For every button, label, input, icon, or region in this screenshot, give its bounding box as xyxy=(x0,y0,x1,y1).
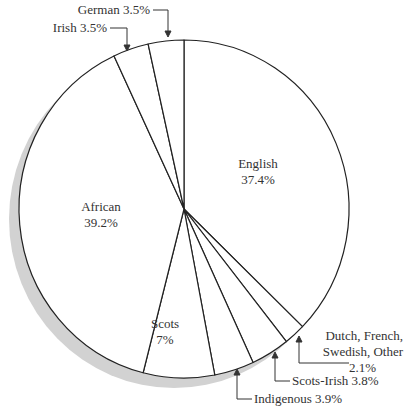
label-indigenous: Indigenous 3.9% xyxy=(254,391,342,406)
label-english-pct: 37.4% xyxy=(241,172,275,187)
callout-german xyxy=(153,10,171,37)
callout-indigenous xyxy=(234,369,252,399)
callout-irish xyxy=(110,28,130,51)
label-dutch-1: Dutch, French, xyxy=(325,328,403,343)
callout-scots-irish xyxy=(272,352,290,381)
label-irish: Irish 3.5% xyxy=(53,20,107,35)
label-african-pct: 39.2% xyxy=(84,215,118,230)
label-african: African xyxy=(81,199,121,214)
label-scots-pct: 7% xyxy=(156,332,174,347)
label-scots: Scots xyxy=(151,316,179,331)
pie-slices xyxy=(19,40,349,378)
label-dutch-2: Swedish, Other xyxy=(323,344,404,359)
label-english: English xyxy=(238,156,278,171)
label-german: German 3.5% xyxy=(78,2,150,17)
pie-chart: English 37.4% African 39.2% Scots 7% Ger… xyxy=(0,0,406,407)
label-scots-irish: Scots-Irish 3.8% xyxy=(292,373,379,388)
